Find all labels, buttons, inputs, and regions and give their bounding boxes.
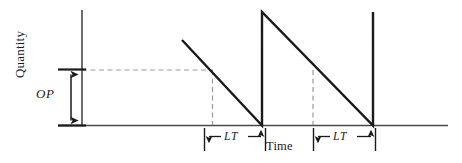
axes-group xyxy=(58,10,448,126)
lead-time-label-1: LT xyxy=(224,130,238,142)
order-point-label: OP xyxy=(36,86,55,102)
inventory-sawtooth-line xyxy=(182,12,373,126)
lead-time-label-2: LT xyxy=(333,130,347,142)
inventory-sawtooth-figure: Quantity Time OP LT LT xyxy=(0,0,462,163)
y-axis-label: Quantity xyxy=(12,31,28,78)
x-axis-label: Time xyxy=(266,139,293,154)
reference-lines-group xyxy=(82,70,313,125)
